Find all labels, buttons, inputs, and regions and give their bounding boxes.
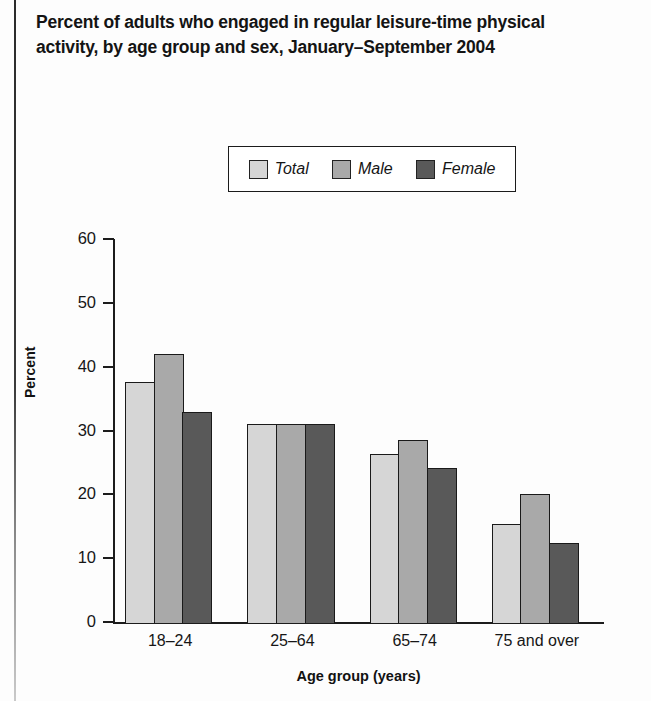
bar-male <box>154 354 184 623</box>
x-tick-label: 75 and over <box>452 632 622 650</box>
y-axis-line <box>113 239 115 624</box>
y-tick-label: 20 <box>50 484 96 503</box>
y-tick-label: 30 <box>50 421 96 440</box>
bar-group <box>370 239 460 623</box>
bar-female <box>305 424 335 623</box>
x-axis-title: Age group (years) <box>113 668 604 684</box>
y-tick <box>103 621 114 623</box>
figure-page: Percent of adults who engaged in regular… <box>0 0 651 701</box>
bar-male <box>520 494 550 623</box>
bar-group <box>247 239 337 623</box>
y-tick-label: 60 <box>50 229 96 248</box>
bar-male <box>398 440 428 623</box>
bar-total <box>370 454 400 623</box>
bar-total <box>492 524 522 623</box>
bar-male <box>276 424 306 623</box>
y-tick <box>103 557 114 559</box>
y-axis-title: Percent <box>22 347 38 398</box>
y-tick <box>103 493 114 495</box>
bar-total <box>247 424 277 623</box>
y-tick-label: 50 <box>50 293 96 312</box>
bar-total <box>125 382 155 623</box>
y-tick <box>103 238 114 240</box>
y-tick-label: 10 <box>50 548 96 567</box>
bar-female <box>549 543 579 623</box>
y-tick-label: 0 <box>50 612 96 631</box>
bar-female <box>427 468 457 623</box>
bar-chart: 0102030405060 Percent 18–2425–6465–7475 … <box>0 0 651 701</box>
bar-female <box>182 412 212 623</box>
y-tick <box>103 430 114 432</box>
y-tick-label: 40 <box>50 357 96 376</box>
y-tick <box>103 366 114 368</box>
y-tick <box>103 302 114 304</box>
bar-group <box>125 239 215 623</box>
bar-group <box>492 239 582 623</box>
